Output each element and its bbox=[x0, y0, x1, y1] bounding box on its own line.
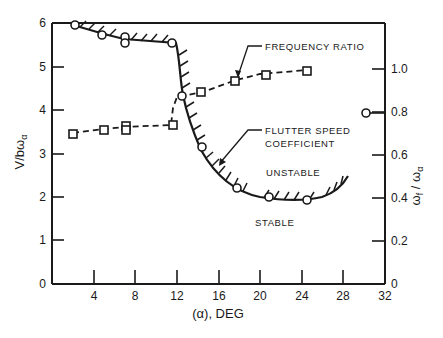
circle-marker bbox=[121, 39, 129, 47]
svg-text:2: 2 bbox=[39, 190, 46, 204]
svg-text:0.4: 0.4 bbox=[391, 191, 408, 205]
x-axis-title: (α), DEG bbox=[192, 306, 244, 321]
svg-text:3: 3 bbox=[39, 147, 46, 161]
svg-text:16: 16 bbox=[212, 289, 226, 303]
square-marker bbox=[122, 126, 130, 134]
svg-text:V/bωα: V/bωα bbox=[12, 135, 29, 170]
isolated-circle-marker bbox=[362, 109, 370, 117]
svg-text:ωf / ωα: ωf / ωα bbox=[408, 167, 425, 206]
svg-text:0.6: 0.6 bbox=[391, 148, 408, 162]
y-axis-title-right: ωf / ωα bbox=[408, 167, 425, 206]
svg-text:20: 20 bbox=[253, 289, 267, 303]
y-ticks-left bbox=[52, 67, 64, 240]
circle-marker bbox=[265, 193, 273, 201]
plot-frame bbox=[52, 23, 385, 284]
square-marker bbox=[303, 67, 311, 75]
y-tick-labels-left: 0 1 2 3 4 5 6 bbox=[39, 16, 46, 291]
svg-text:32: 32 bbox=[378, 289, 392, 303]
svg-text:4: 4 bbox=[91, 289, 98, 303]
square-marker bbox=[197, 88, 205, 96]
svg-text:0.8: 0.8 bbox=[391, 105, 408, 119]
circle-marker bbox=[233, 184, 241, 192]
circle-marker bbox=[198, 143, 206, 151]
frequency-ratio-label: FREQUENCY RATIO bbox=[265, 41, 364, 52]
circle-marker bbox=[98, 31, 106, 39]
square-marker bbox=[100, 126, 108, 134]
y-axis-title-left: V/bωα bbox=[12, 135, 29, 170]
svg-text:0: 0 bbox=[391, 277, 398, 291]
unstable-region-label: UNSTABLE bbox=[266, 167, 320, 178]
svg-text:24: 24 bbox=[295, 289, 309, 303]
svg-text:1: 1 bbox=[39, 233, 46, 247]
svg-text:28: 28 bbox=[336, 289, 350, 303]
svg-text:0: 0 bbox=[39, 277, 46, 291]
y-ticks-right bbox=[372, 69, 385, 241]
y-tick-labels-right: 0 0.2 0.4 0.6 0.8 1.0 bbox=[391, 62, 408, 291]
circle-marker bbox=[178, 92, 186, 100]
svg-text:0.2: 0.2 bbox=[391, 234, 408, 248]
stable-region-label: STABLE bbox=[255, 217, 294, 228]
annotation-leaders bbox=[219, 46, 262, 166]
circle-marker bbox=[71, 21, 79, 29]
x-ticks bbox=[94, 270, 343, 284]
square-marker bbox=[169, 121, 177, 129]
svg-text:5: 5 bbox=[39, 60, 46, 74]
flutter-speed-label-line2: COEFFICIENT bbox=[265, 138, 335, 149]
svg-text:12: 12 bbox=[170, 289, 184, 303]
square-marker bbox=[231, 77, 239, 85]
flutter-chart: 4 8 12 16 20 24 28 32 0 1 2 3 4 5 6 0 0.… bbox=[0, 0, 443, 338]
svg-text:8: 8 bbox=[132, 289, 139, 303]
x-tick-labels: 4 8 12 16 20 24 28 32 bbox=[91, 289, 392, 303]
square-marker bbox=[262, 71, 270, 79]
svg-text:4: 4 bbox=[39, 103, 46, 117]
svg-text:1.0: 1.0 bbox=[391, 62, 408, 76]
svg-text:6: 6 bbox=[39, 16, 46, 30]
flutter-speed-label-line1: FLUTTER SPEED bbox=[265, 125, 350, 136]
circle-marker bbox=[303, 196, 311, 204]
circle-marker bbox=[168, 39, 176, 47]
square-marker bbox=[69, 130, 77, 138]
